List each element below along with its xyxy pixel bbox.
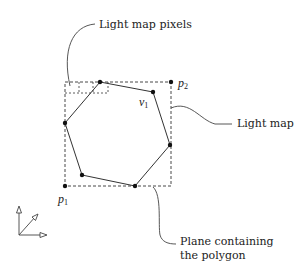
- label-p2: p2: [177, 76, 188, 91]
- point-p1: [63, 184, 67, 188]
- label-light-map-pixels: Light map pixels: [99, 18, 192, 31]
- light-map-pixels: [65, 82, 108, 93]
- label-p1: p1: [57, 192, 68, 207]
- label-plane-line1: Plane containing: [180, 235, 274, 248]
- leader-plane: [153, 187, 176, 244]
- point-p2: [169, 80, 173, 84]
- polygon: [65, 82, 170, 186]
- label-v1: v1: [139, 95, 148, 110]
- polygon-vertices: [63, 80, 173, 188]
- diagram-canvas: p1 p2 v1 Light map pixels Light map Plan…: [0, 0, 303, 271]
- leader-light-map: [171, 106, 232, 124]
- label-light-map: Light map: [237, 117, 294, 130]
- axes-icon: [17, 206, 48, 238]
- leader-light-map-pixels: [67, 24, 95, 86]
- label-plane-line2: the polygon: [180, 249, 246, 262]
